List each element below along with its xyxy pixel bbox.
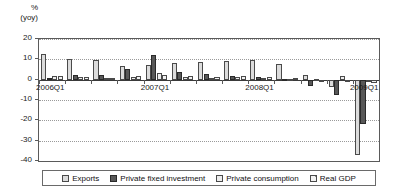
bar-private-consumption-2006Q3 — [104, 78, 109, 80]
bar-private-consumption-2008Q1 — [261, 78, 266, 80]
bar-real-gdp-2006Q4 — [136, 76, 141, 80]
bar-real-gdp-2008Q4 — [345, 80, 350, 82]
x-tick-mark-2008Q3 — [301, 80, 302, 84]
bar-private-consumption-2007Q4 — [235, 77, 240, 80]
bar-exports-2006Q2 — [67, 59, 72, 80]
bar-private-fixed-investment-2008Q4 — [334, 80, 339, 95]
y-tick-label-10: 10 — [2, 54, 32, 62]
bar-exports-2006Q4 — [120, 66, 125, 79]
bar-private-fixed-investment-2007Q3 — [204, 74, 209, 80]
bar-private-consumption-2007Q2 — [183, 77, 188, 80]
bar-real-gdp-2006Q2 — [84, 77, 89, 80]
bar-real-gdp-2007Q2 — [188, 76, 193, 80]
bar-private-consumption-2008Q3 — [314, 79, 319, 81]
x-axis-label-2009Q1: 2009Q1 — [350, 83, 378, 92]
bar-real-gdp-2006Q1 — [58, 76, 63, 80]
bar-exports-2006Q1 — [41, 54, 46, 79]
bar-exports-2007Q1 — [146, 65, 151, 79]
x-tick-mark-2007Q3 — [196, 80, 197, 84]
bar-private-fixed-investment-2007Q4 — [230, 76, 235, 80]
bar-private-consumption-2009Q1 — [366, 80, 371, 82]
bar-real-gdp-2008Q2 — [293, 78, 298, 80]
bar-exports-2007Q2 — [172, 63, 177, 80]
y-tick-label--10: -10 — [2, 95, 32, 103]
legend-label-private-fixed-investment: Private fixed investment — [120, 174, 205, 183]
bar-private-fixed-investment-2007Q2 — [177, 72, 182, 80]
gridline-20 — [39, 39, 379, 40]
bar-private-fixed-investment-2006Q1 — [47, 78, 52, 80]
y-tick-label--30: -30 — [2, 136, 32, 144]
x-tick-mark-2006Q3 — [91, 80, 92, 84]
bar-exports-2008Q3 — [303, 75, 308, 80]
legend-item-private-fixed-investment[interactable]: Private fixed investment — [110, 174, 205, 183]
x-tick-mark-2008Q2 — [274, 80, 275, 84]
bar-exports-2008Q2 — [276, 64, 281, 80]
gridline-10 — [39, 59, 379, 60]
legend-label-exports: Exports — [72, 174, 99, 183]
plot-area — [38, 38, 380, 162]
legend-item-real-gdp[interactable]: Real GDP — [310, 174, 356, 183]
x-tick-mark-2007Q4 — [222, 80, 223, 84]
exports-swatch — [62, 175, 69, 182]
bar-private-fixed-investment-2006Q2 — [73, 75, 78, 79]
bar-real-gdp-2006Q3 — [110, 78, 115, 80]
private-consumption-swatch — [216, 175, 223, 182]
legend-item-private-consumption[interactable]: Private consumption — [216, 174, 298, 183]
bar-private-fixed-investment-2006Q4 — [125, 69, 130, 80]
y-tick-label--20: -20 — [2, 115, 32, 123]
x-tick-mark-2006Q2 — [65, 80, 66, 84]
x-tick-mark-2007Q2 — [170, 80, 171, 84]
bar-private-fixed-investment-2006Q3 — [99, 75, 104, 80]
bar-exports-2007Q3 — [198, 62, 203, 79]
x-axis-label-2006Q1: 2006Q1 — [36, 83, 64, 92]
bar-private-consumption-2008Q4 — [340, 76, 345, 79]
chart-figure: % (yoy) 20100-10-20-30-40 2006Q12007Q120… — [0, 0, 406, 193]
bar-real-gdp-2007Q3 — [214, 77, 219, 80]
gridline--20 — [39, 120, 379, 121]
chart-legend: ExportsPrivate fixed investmentPrivate c… — [42, 170, 376, 186]
x-axis-label-2007Q1: 2007Q1 — [141, 83, 169, 92]
legend-label-real-gdp: Real GDP — [320, 174, 356, 183]
y-tick-label--40: -40 — [2, 156, 32, 164]
y-tick-label-0: 0 — [2, 75, 32, 83]
bar-real-gdp-2007Q4 — [241, 76, 246, 79]
bar-private-fixed-investment-2008Q3 — [308, 80, 313, 86]
bar-exports-2008Q1 — [250, 60, 255, 80]
bar-private-fixed-investment-2008Q2 — [282, 79, 287, 81]
x-axis-label-2008Q1: 2008Q1 — [245, 83, 273, 92]
x-tick-mark-2006Q4 — [117, 80, 118, 84]
y-axis-unit-yoy: (yoy) — [0, 13, 38, 23]
bar-real-gdp-2008Q3 — [319, 80, 324, 82]
bar-private-consumption-2006Q1 — [52, 76, 57, 79]
y-axis-unit-percent: % — [0, 3, 38, 13]
bar-real-gdp-2007Q1 — [162, 75, 167, 80]
bar-private-consumption-2007Q3 — [209, 78, 214, 80]
bar-private-consumption-2006Q4 — [131, 77, 136, 80]
bar-exports-2008Q4 — [329, 80, 334, 87]
bar-exports-2006Q3 — [93, 60, 98, 80]
x-tick-mark-2008Q4 — [327, 80, 328, 84]
legend-label-private-consumption: Private consumption — [226, 174, 298, 183]
bar-private-consumption-2007Q1 — [157, 73, 162, 80]
legend-item-exports[interactable]: Exports — [62, 174, 99, 183]
gridline--30 — [39, 141, 379, 142]
bar-private-consumption-2006Q2 — [78, 77, 83, 79]
real-gdp-swatch — [310, 175, 317, 182]
bar-exports-2007Q4 — [224, 61, 229, 80]
bar-private-consumption-2008Q2 — [287, 79, 292, 81]
gridline--10 — [39, 100, 379, 101]
y-tick-label-20: 20 — [2, 34, 32, 42]
private-fixed-investment-swatch — [110, 175, 117, 182]
plot-inner — [39, 39, 379, 161]
bar-private-fixed-investment-2008Q1 — [256, 77, 261, 79]
bar-real-gdp-2008Q1 — [267, 77, 272, 79]
bar-private-fixed-investment-2007Q1 — [151, 55, 156, 79]
